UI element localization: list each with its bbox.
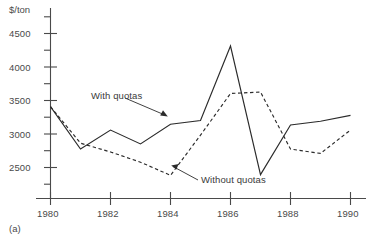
- x-tick-label-1984: 1984: [157, 208, 179, 219]
- x-tick-label-1990: 1990: [337, 208, 359, 219]
- series-with-quotas: [51, 46, 351, 175]
- axes-group: [36, 8, 366, 199]
- y-tick-label-4500: 4500: [9, 28, 31, 39]
- annotation-label-without-quotas: Without quotas: [201, 174, 266, 185]
- figure-caption: (a): [9, 223, 21, 234]
- x-tick-label-1982: 1982: [97, 208, 119, 219]
- y-axis-unit-label: $/ton: [9, 4, 30, 15]
- y-tick-label-3500: 3500: [9, 95, 31, 106]
- x-tick-label-1988: 1988: [277, 208, 299, 219]
- series-without-quotas: [51, 92, 351, 175]
- annotation-arrow-without-quotas: [171, 164, 198, 180]
- y-tick-label-4000: 4000: [9, 62, 31, 73]
- figure-container: $/ton 4500 4000 3500 3000 2500 1980 1982…: [0, 0, 369, 240]
- x-tick-label-1986: 1986: [217, 208, 239, 219]
- chart-canvas: [0, 0, 369, 240]
- annotation-label-with-quotas: With quotas: [91, 90, 142, 101]
- y-tick-label-2500: 2500: [9, 162, 31, 173]
- y-tick-label-3000: 3000: [9, 129, 31, 140]
- x-tick-label-1980: 1980: [37, 208, 59, 219]
